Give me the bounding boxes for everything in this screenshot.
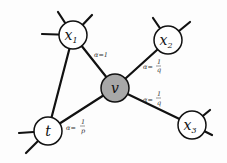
edge-label-t: α= 1 p bbox=[66, 118, 86, 135]
svg-text:q: q bbox=[157, 99, 161, 107]
node-t-label: t bbox=[45, 123, 51, 139]
svg-text:1: 1 bbox=[81, 118, 85, 126]
edge-label-x3: α= 1 q bbox=[143, 90, 161, 107]
graph-canvas: x1 x2 v x3 t α=1 α= 1 q α= 1 q α= 1 p bbox=[0, 0, 227, 163]
svg-text:1: 1 bbox=[157, 90, 161, 98]
node2vec-diagram: x1 x2 v x3 t α=1 α= 1 q α= 1 q α= 1 p bbox=[0, 0, 227, 163]
node-v-label: v bbox=[111, 80, 119, 96]
edge-label-x1: α=1 bbox=[94, 51, 108, 59]
svg-text:1: 1 bbox=[157, 58, 161, 66]
svg-text:α=: α= bbox=[66, 124, 76, 132]
svg-text:q: q bbox=[157, 66, 161, 74]
svg-text:α=: α= bbox=[143, 96, 153, 104]
svg-text:α=: α= bbox=[143, 63, 153, 71]
svg-text:p: p bbox=[81, 127, 86, 135]
